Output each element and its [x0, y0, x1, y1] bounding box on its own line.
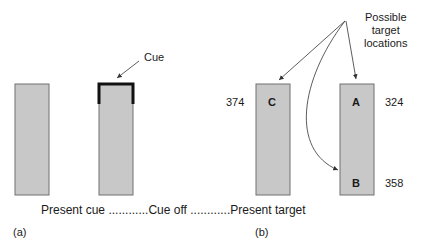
- cue-arrow: [117, 61, 139, 78]
- box-letter-a: A: [352, 96, 360, 108]
- value-a: 324: [385, 96, 403, 108]
- box-letter-c: C: [268, 96, 276, 108]
- cue-label: Cue: [144, 51, 164, 63]
- arrow-to-b: [306, 21, 345, 170]
- left-placeholder-box: [15, 84, 49, 195]
- box-letter-b: B: [352, 177, 360, 189]
- arrow-to-a: [346, 21, 356, 79]
- timeline-dots-2: ............: [190, 203, 230, 217]
- value-b: 358: [385, 177, 403, 189]
- panel-a-label: (a): [13, 226, 26, 238]
- timeline-dots-1: ............: [108, 203, 148, 217]
- timeline-step-present-target: Present target: [230, 203, 305, 217]
- timeline: Present cue ............Cue off ........…: [41, 203, 306, 217]
- value-c: 374: [226, 96, 244, 108]
- timeline-step-cue-off: Cue off: [148, 203, 186, 217]
- possible-targets-label: Possible target locations: [364, 11, 407, 50]
- panel-b-label: (b): [255, 226, 268, 238]
- timeline-step-present-cue: Present cue: [41, 203, 105, 217]
- arrow-to-c: [279, 21, 345, 80]
- cued-placeholder-box: [99, 84, 133, 195]
